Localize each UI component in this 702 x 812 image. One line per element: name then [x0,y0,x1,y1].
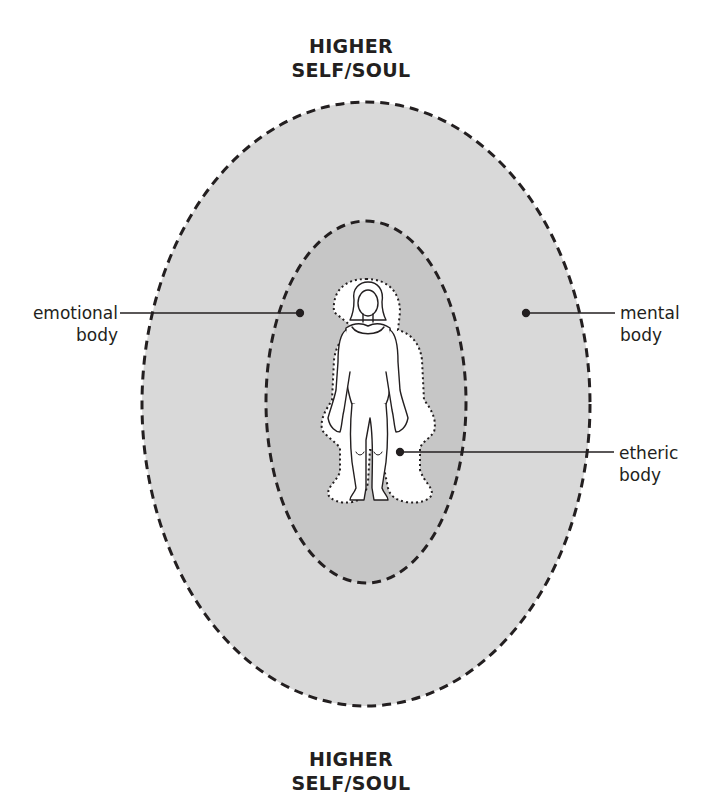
aura-diagram [0,0,702,812]
title-bottom-line2: SELF/SOUL [0,771,702,795]
title-top-line2: SELF/SOUL [0,58,702,82]
mental-leader-dot [523,310,530,317]
etheric-leader-dot [397,449,404,456]
emotional-body-label: emotional body [14,302,118,346]
title-bottom-higher-self: HIGHER SELF/SOUL [0,747,702,795]
mental-label-line2: body [620,324,700,346]
mental-label-line1: mental [620,302,700,324]
mental-body-label: mental body [620,302,700,346]
etheric-label-line2: body [619,464,701,486]
title-bottom-line1: HIGHER [0,747,702,771]
emotional-label-line2: body [14,324,118,346]
title-top-higher-self: HIGHER SELF/SOUL [0,34,702,82]
title-top-line1: HIGHER [0,34,702,58]
emotional-leader-dot [297,310,304,317]
etheric-label-line1: etheric [619,442,701,464]
emotional-label-line1: emotional [14,302,118,324]
etheric-body-label: etheric body [619,442,701,486]
